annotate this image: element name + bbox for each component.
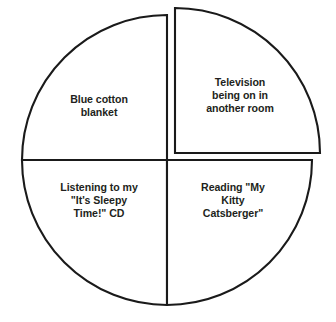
pie-slice-listening-cd[interactable] xyxy=(22,160,167,305)
pie-chart-canvas xyxy=(0,0,336,322)
pie-slice-blue-cotton-blanket[interactable] xyxy=(22,15,167,160)
pie-slice-reading-book[interactable] xyxy=(167,160,312,305)
pie-chart: Blue cotton blanket Television being on … xyxy=(0,0,336,322)
pie-slice-television[interactable] xyxy=(175,8,320,153)
